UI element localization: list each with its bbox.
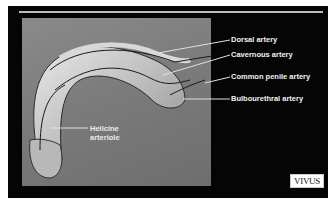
glans	[30, 139, 62, 178]
helicine-line1: Helicine	[90, 124, 120, 133]
helicine-line2: arteriole	[90, 133, 120, 142]
label-cavernous-artery: Cavernous artery	[231, 50, 293, 59]
leader-dorsal	[158, 40, 230, 53]
label-common-penile-artery: Common penile artery	[231, 72, 310, 81]
label-helicine-arteriole: Helicine arteriole	[90, 124, 120, 142]
label-bulbourethral-artery: Bulbourethral artery	[231, 94, 303, 103]
label-dorsal-artery: Dorsal artery	[231, 35, 277, 44]
leader-common-penile	[205, 77, 230, 83]
vivus-logo: VIVUS	[290, 174, 324, 188]
anatomy-illustration	[0, 0, 336, 206]
